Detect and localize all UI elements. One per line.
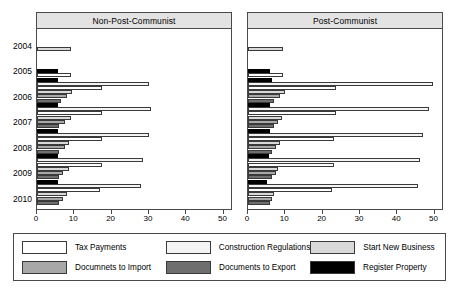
plot-area-left xyxy=(36,29,232,210)
year-group-2009 xyxy=(37,157,231,183)
panel-title-left: Non-Post-Communist xyxy=(92,16,175,26)
legend-swatch-documents-to-export xyxy=(166,261,211,274)
year-group-2005 xyxy=(37,55,231,81)
year-group-2010 xyxy=(248,182,442,208)
year-group-2006 xyxy=(37,80,231,106)
legend-label-documents-to-export: Documents to Export xyxy=(219,263,295,272)
year-group-2008 xyxy=(37,131,231,157)
x-ticklabel-20: 20 xyxy=(317,214,326,223)
legend-item-start-new-business: Start New Business xyxy=(310,239,445,255)
year-group-2010 xyxy=(37,182,231,208)
bar-2009-exp xyxy=(37,175,59,179)
legend-label-construction-regulations: Construction Regulations xyxy=(219,243,310,252)
year-group-2007 xyxy=(37,106,231,132)
panel-title-right: Post-Communist xyxy=(313,16,377,26)
x-ticklabel-10: 10 xyxy=(69,214,78,223)
legend-row-1: Tax Payments Construction Regulations St… xyxy=(14,239,445,255)
bar-2005-tax xyxy=(37,73,71,77)
year-label-2010: 2010 xyxy=(0,194,32,204)
panel-non-post-communist: Non-Post-Communist xyxy=(36,12,232,210)
year-group-2009 xyxy=(248,157,442,183)
x-ticklabel-40: 40 xyxy=(392,214,401,223)
year-label-2005: 2005 xyxy=(0,66,32,76)
year-label-2007: 2007 xyxy=(0,117,32,127)
legend-item-documents-to-import: Documnets to Import xyxy=(14,259,166,275)
year-group-2006 xyxy=(248,80,442,106)
legend-swatch-construction-regulations xyxy=(166,241,211,254)
legend-swatch-register-property xyxy=(310,261,355,274)
legend-item-tax-payments: Tax Payments xyxy=(14,239,166,255)
legend-item-register-property: Register Property xyxy=(310,259,445,275)
legend-row-2: Documnets to Import Documents to Export … xyxy=(14,259,445,275)
bar-2004-start xyxy=(37,47,71,51)
year-group-2004 xyxy=(248,29,442,55)
x-ticklabel-10: 10 xyxy=(280,214,289,223)
year-group-2008 xyxy=(248,131,442,157)
legend-label-documents-to-import: Documnets to Import xyxy=(75,263,151,272)
year-group-2007 xyxy=(248,106,442,132)
panel-strip-left: Non-Post-Communist xyxy=(36,12,232,29)
panel-post-communist: Post-Communist xyxy=(247,12,443,210)
chart-legend: Tax Payments Construction Regulations St… xyxy=(13,233,446,281)
year-label-2008: 2008 xyxy=(0,143,32,153)
plot-area-right xyxy=(247,29,443,210)
legend-swatch-documents-to-import xyxy=(22,261,67,274)
bar-2008-exp xyxy=(248,150,272,154)
x-ticklabel-0: 0 xyxy=(34,214,38,223)
bar-2010-exp xyxy=(248,201,270,205)
bar-2006-exp xyxy=(248,99,274,103)
bar-2007-exp xyxy=(248,124,274,128)
legend-label-tax-payments: Tax Payments xyxy=(75,243,126,252)
legend-label-register-property: Register Property xyxy=(363,263,427,272)
bar-2007-exp xyxy=(37,124,59,128)
bar-2009-exp xyxy=(248,175,272,179)
year-label-2006: 2006 xyxy=(0,92,32,102)
legend-swatch-tax-payments xyxy=(22,241,67,254)
legend-label-start-new-business: Start New Business xyxy=(363,243,434,252)
year-group-2004 xyxy=(37,29,231,55)
year-group-2005 xyxy=(248,55,442,81)
x-ticklabel-40: 40 xyxy=(181,214,190,223)
x-ticklabel-30: 30 xyxy=(354,214,363,223)
bar-2010-exp xyxy=(37,201,59,205)
bar-2008-exp xyxy=(37,150,59,154)
legend-swatch-start-new-business xyxy=(310,241,355,254)
x-axis-left: 01020304050 xyxy=(36,210,232,226)
year-label-2009: 2009 xyxy=(0,168,32,178)
bar-2006-exp xyxy=(37,99,61,103)
x-ticklabel-20: 20 xyxy=(106,214,115,223)
x-ticklabel-50: 50 xyxy=(429,214,438,223)
bar-2005-tax xyxy=(248,73,283,77)
x-axis-right: 01020304050 xyxy=(247,210,443,226)
year-label-2004: 2004 xyxy=(0,41,32,51)
chart-figure: 2004200520062007200820092010 Non-Post-Co… xyxy=(0,0,459,293)
bar-2004-start xyxy=(248,47,283,51)
x-ticklabel-0: 0 xyxy=(245,214,249,223)
panel-strip-right: Post-Communist xyxy=(247,12,443,29)
legend-item-construction-regulations: Construction Regulations xyxy=(166,239,310,255)
x-ticklabel-50: 50 xyxy=(218,214,227,223)
legend-item-documents-to-export: Documents to Export xyxy=(166,259,310,275)
x-ticklabel-30: 30 xyxy=(143,214,152,223)
